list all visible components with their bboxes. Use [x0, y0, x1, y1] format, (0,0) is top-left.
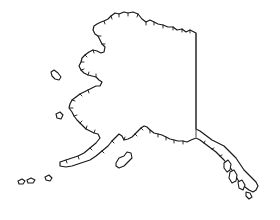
alaska-outline-svg — [0, 0, 280, 220]
panhandle-island-4 — [246, 192, 252, 199]
panhandle-island-1 — [224, 160, 231, 172]
alaska-map: Alaska — [0, 0, 280, 220]
aleutian-island-1 — [45, 175, 52, 181]
st-lawrence-island — [51, 70, 61, 80]
aleutian-island-2 — [18, 179, 25, 184]
nunivak-island — [56, 112, 63, 119]
panhandle-island-2 — [229, 170, 237, 183]
aleutian-island-3 — [27, 178, 35, 183]
kodiak-island — [116, 152, 132, 168]
